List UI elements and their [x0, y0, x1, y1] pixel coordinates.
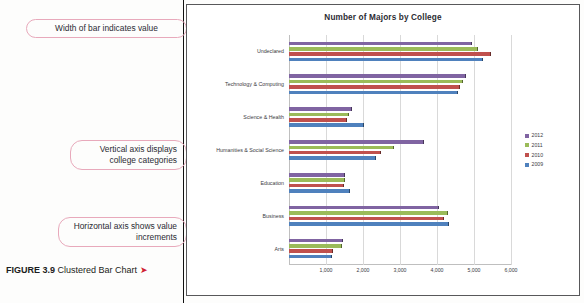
bar-end-cap — [482, 58, 483, 62]
bar-2011 — [289, 244, 342, 248]
category-row: Arts — [289, 232, 511, 265]
bar-end-cap — [465, 74, 466, 78]
category-axis-label: Education — [260, 180, 284, 186]
bar-2009 — [289, 123, 364, 127]
caption-arrow-icon: ➤ — [140, 265, 148, 275]
bar-2010 — [289, 52, 491, 56]
bar-end-cap — [332, 249, 333, 253]
plot-area: UndeclaredTechnology & ComputingScience … — [289, 35, 511, 265]
bar-end-cap — [447, 211, 448, 215]
bar-end-cap — [423, 140, 424, 144]
bar-end-cap — [363, 123, 364, 127]
chart-legend: 2012201120102009 — [525, 133, 543, 168]
bar-end-cap — [393, 146, 394, 150]
bar-2010 — [289, 184, 344, 188]
bar-2011 — [289, 47, 478, 51]
bar-end-cap — [331, 255, 332, 259]
bar-2009 — [289, 58, 483, 62]
bar-2012 — [289, 107, 352, 111]
bar-2010 — [289, 217, 444, 221]
legend-item-2009[interactable]: 2009 — [525, 162, 543, 167]
legend-label: 2011 — [532, 143, 543, 148]
category-row: Humanities & Social Science — [289, 134, 511, 167]
bar-end-cap — [457, 91, 458, 95]
x-tick-label: 6,000 — [505, 267, 518, 273]
bar-2010 — [289, 249, 333, 253]
bar-2009 — [289, 189, 350, 193]
x-tick-label: 3,000 — [394, 267, 407, 273]
figure-page: Width of bar indicates value Vertical ax… — [0, 0, 584, 303]
bar-end-cap — [342, 239, 343, 243]
figure-caption-label: FIGURE 3.9 — [6, 265, 55, 275]
chart-panel: Number of Majors by College UndeclaredTe… — [186, 4, 580, 296]
legend-swatch-icon — [525, 163, 529, 167]
category-axis-label: Science & Health — [243, 114, 284, 120]
bar-end-cap — [349, 189, 350, 193]
x-tick-label: 2,000 — [357, 267, 370, 273]
figure-caption-title: Clustered Bar Chart — [58, 265, 138, 275]
bar-end-cap — [380, 151, 381, 155]
figure-caption: FIGURE 3.9 Clustered Bar Chart ➤ — [6, 264, 181, 277]
annotation-callout-vertical-axis: Vertical axis displays college categorie… — [70, 140, 187, 170]
bar-end-cap — [462, 80, 463, 84]
bar-end-cap — [443, 217, 444, 221]
bar-2012 — [289, 42, 472, 46]
bar-end-cap — [477, 47, 478, 51]
category-axis-label: Humanities & Social Science — [216, 147, 284, 153]
legend-item-2011[interactable]: 2011 — [525, 143, 543, 148]
bar-2010 — [289, 85, 460, 89]
category-axis-label: Undeclared — [257, 48, 284, 54]
legend-item-2012[interactable]: 2012 — [525, 133, 543, 138]
category-row: Undeclared — [289, 35, 511, 68]
chart-title: Number of Majors by College — [187, 13, 579, 22]
x-tick-label: 4,000 — [431, 267, 444, 273]
bar-2012 — [289, 239, 343, 243]
bar-end-cap — [346, 118, 347, 122]
legend-swatch-icon — [525, 143, 529, 147]
category-row: Business — [289, 199, 511, 232]
category-axis-label: Arts — [275, 246, 284, 252]
bar-end-cap — [343, 184, 344, 188]
category-row: Education — [289, 166, 511, 199]
bar-2010 — [289, 118, 347, 122]
bar-2011 — [289, 113, 349, 117]
legend-swatch-icon — [525, 153, 529, 157]
bar-end-cap — [351, 107, 352, 111]
bar-end-cap — [438, 206, 439, 210]
bar-2012 — [289, 140, 424, 144]
bar-2009 — [289, 222, 449, 226]
bar-2011 — [289, 80, 463, 84]
legend-label: 2012 — [532, 133, 544, 138]
bar-end-cap — [344, 173, 345, 177]
bar-2009 — [289, 91, 458, 95]
bar-2010 — [289, 151, 381, 155]
bar-2012 — [289, 74, 466, 78]
annotation-callout-horizontal-axis: Horizontal axis shows value increments — [58, 217, 187, 247]
category-axis-label: Business — [263, 213, 285, 219]
x-tick-label: 1,000 — [320, 267, 333, 273]
bar-end-cap — [348, 113, 349, 117]
bar-end-cap — [471, 42, 472, 46]
legend-swatch-icon — [525, 134, 529, 138]
bar-end-cap — [490, 52, 491, 56]
annotation-callout-bar-width: Width of bar indicates value — [26, 19, 187, 38]
bar-end-cap — [375, 156, 376, 160]
bar-2011 — [289, 178, 345, 182]
bar-2011 — [289, 211, 448, 215]
category-row: Science & Health — [289, 101, 511, 134]
bar-end-cap — [448, 222, 449, 226]
legend-label: 2009 — [532, 162, 544, 167]
category-row: Technology & Computing — [289, 68, 511, 101]
bar-end-cap — [459, 85, 460, 89]
category-axis-label: Technology & Computing — [225, 81, 284, 87]
legend-label: 2010 — [532, 153, 544, 158]
bar-2011 — [289, 146, 394, 150]
bar-end-cap — [341, 244, 342, 248]
bar-2012 — [289, 173, 345, 177]
bar-2012 — [289, 206, 439, 210]
bar-2009 — [289, 255, 332, 259]
grid-line — [511, 35, 512, 265]
bar-end-cap — [344, 178, 345, 182]
legend-item-2010[interactable]: 2010 — [525, 153, 543, 158]
x-axis-tick-labels: 1,0002,0003,0004,0005,0006,000 — [289, 267, 511, 279]
